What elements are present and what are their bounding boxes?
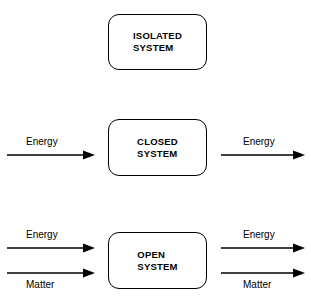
closed-output-energy-arrow <box>221 148 305 164</box>
system-box-closed: CLOSED SYSTEM <box>108 119 207 176</box>
open-output-energy-label: Energy <box>243 229 275 241</box>
closed-output-energy-label: Energy <box>243 136 275 148</box>
open-input-matter-label: Matter <box>26 279 54 291</box>
system-box-closed-label: CLOSED SYSTEM <box>137 136 178 160</box>
open-output-energy-arrow <box>221 241 305 257</box>
system-box-isolated: ISOLATED SYSTEM <box>108 14 207 70</box>
open-output-matter-label: Matter <box>243 279 271 291</box>
closed-input-energy-label: Energy <box>26 136 58 148</box>
system-box-open-label: OPEN SYSTEM <box>137 249 177 273</box>
diagram-canvas: ISOLATED SYSTEM CLOSED SYSTEM Energy Ene… <box>0 0 311 303</box>
system-box-isolated-label: ISOLATED SYSTEM <box>133 30 182 54</box>
open-input-energy-label: Energy <box>26 229 58 241</box>
open-input-energy-arrow <box>7 241 95 257</box>
closed-input-energy-arrow <box>7 148 95 164</box>
system-box-open: OPEN SYSTEM <box>108 232 207 289</box>
